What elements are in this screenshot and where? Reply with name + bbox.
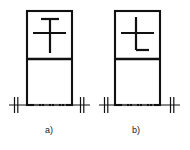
figure-b-label: b) [132, 125, 140, 135]
cross-with-bottom-foot-symbol [121, 17, 154, 50]
figure-a: a) [9, 11, 90, 135]
figure-b: b) [99, 11, 180, 135]
technical-diagram-figure: a) b) [0, 0, 190, 150]
figure-a-label: a) [45, 125, 53, 135]
cross-with-top-bar-symbol [33, 19, 66, 53]
diagram-canvas: a) b) [0, 0, 190, 150]
